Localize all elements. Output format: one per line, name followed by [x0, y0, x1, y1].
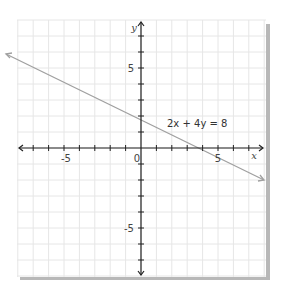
- equation-label: 2x + 4y = 8: [167, 118, 227, 129]
- x-tick-label-5: 5: [215, 153, 221, 164]
- y-tick-label-neg5: -5: [124, 223, 134, 234]
- y-axis-label: y: [130, 22, 137, 33]
- y-tick-label-5: 5: [128, 63, 134, 74]
- x-tick-label-neg5: -5: [61, 153, 71, 164]
- origin-label: 0: [134, 153, 140, 164]
- x-axis-label: x: [251, 150, 257, 161]
- coordinate-plane: -5 0 5 5 -5 y x 2x + 4y = 8: [0, 0, 281, 296]
